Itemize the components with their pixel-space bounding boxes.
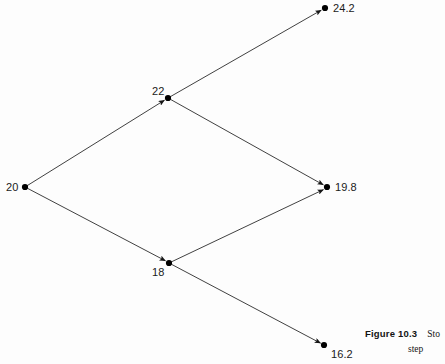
edge-root-to-up1 (25, 100, 165, 187)
edge-group (25, 10, 324, 343)
edge-down1-to-ud (169, 190, 324, 263)
node-label-dd: 16.2 (331, 349, 353, 360)
node-dot-down1 (166, 260, 172, 266)
node-label-down1: 18 (152, 267, 164, 278)
node-dot-ud (324, 184, 330, 190)
edge-up1-to-ud (168, 98, 323, 185)
node-label-uu: 24.2 (333, 3, 355, 14)
node-dot-root (22, 184, 28, 190)
node-dot-dd (321, 342, 327, 348)
node-dot-up1 (165, 95, 171, 101)
figure-caption: Figure 10.3 Sto step (365, 327, 445, 356)
figure-caption-line1-text: Sto (427, 329, 440, 339)
edge-down1-to-dd (169, 263, 321, 343)
node-label-ud: 19.8 (335, 182, 357, 193)
node-dot-uu (322, 5, 328, 11)
figure-caption-label: Figure 10.3 (365, 328, 427, 339)
edge-up1-to-uu (168, 10, 321, 98)
edge-root-to-down1 (25, 187, 166, 261)
node-dot-group (22, 5, 330, 348)
node-label-up1: 22 (152, 86, 164, 97)
node-label-root: 20 (6, 182, 18, 193)
figure-caption-line2-text: step (365, 342, 445, 356)
